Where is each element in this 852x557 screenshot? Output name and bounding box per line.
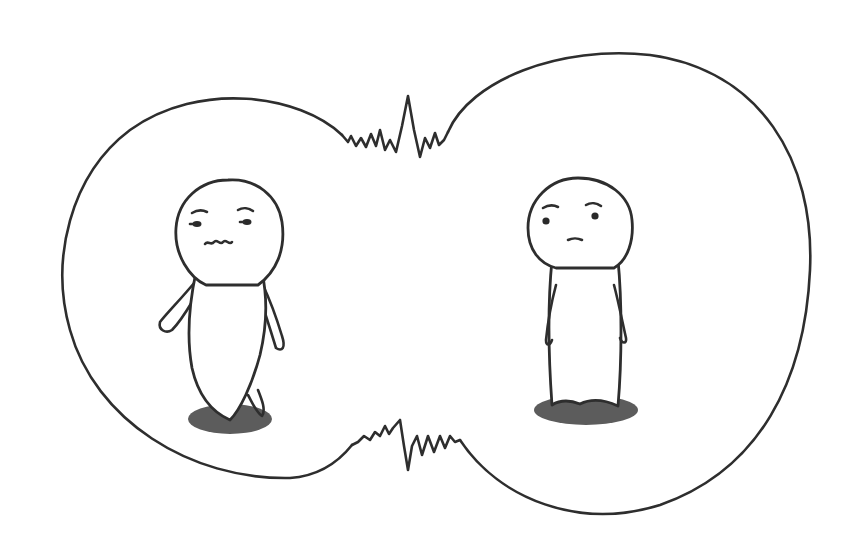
- right-figure: [528, 178, 638, 425]
- top-zigzag: [342, 96, 448, 157]
- illustration: [0, 0, 852, 557]
- bottom-zigzag: [352, 420, 460, 470]
- bubble-outline: [63, 53, 811, 514]
- left-figure: [160, 180, 284, 434]
